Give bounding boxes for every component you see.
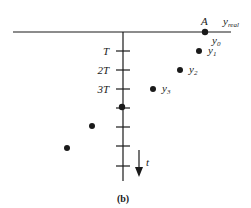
y1-sub: 1 bbox=[213, 50, 217, 58]
label-y-real: yreal bbox=[222, 15, 239, 29]
label-A: A bbox=[200, 15, 208, 27]
point-y3 bbox=[150, 86, 156, 92]
point-y1 bbox=[196, 48, 202, 54]
label-t: t bbox=[146, 156, 150, 168]
y3-sub: 3 bbox=[166, 88, 171, 96]
label-y1: y1 bbox=[207, 44, 216, 58]
point-y4 bbox=[119, 104, 125, 110]
figure-caption: (b) bbox=[117, 193, 129, 205]
time-arrow-icon bbox=[135, 150, 143, 177]
y-real-sub: real bbox=[228, 21, 239, 29]
point-y5 bbox=[89, 123, 95, 129]
diagram-canvas: T 2T 3T A yreal y0 y1 y2 y3 t (b) bbox=[0, 0, 251, 208]
point-y2 bbox=[177, 67, 183, 73]
tick-label-T: T bbox=[103, 45, 110, 57]
y0-sub: 0 bbox=[217, 40, 221, 48]
point-y6 bbox=[64, 145, 70, 151]
label-y3: y3 bbox=[161, 82, 171, 96]
label-y2: y2 bbox=[188, 63, 198, 77]
sample-points bbox=[64, 29, 208, 151]
y2-sub: 2 bbox=[194, 69, 198, 77]
point-A-y0 bbox=[202, 29, 208, 35]
tick-label-2T: 2T bbox=[97, 64, 110, 76]
tick-label-3T: 3T bbox=[96, 83, 110, 95]
